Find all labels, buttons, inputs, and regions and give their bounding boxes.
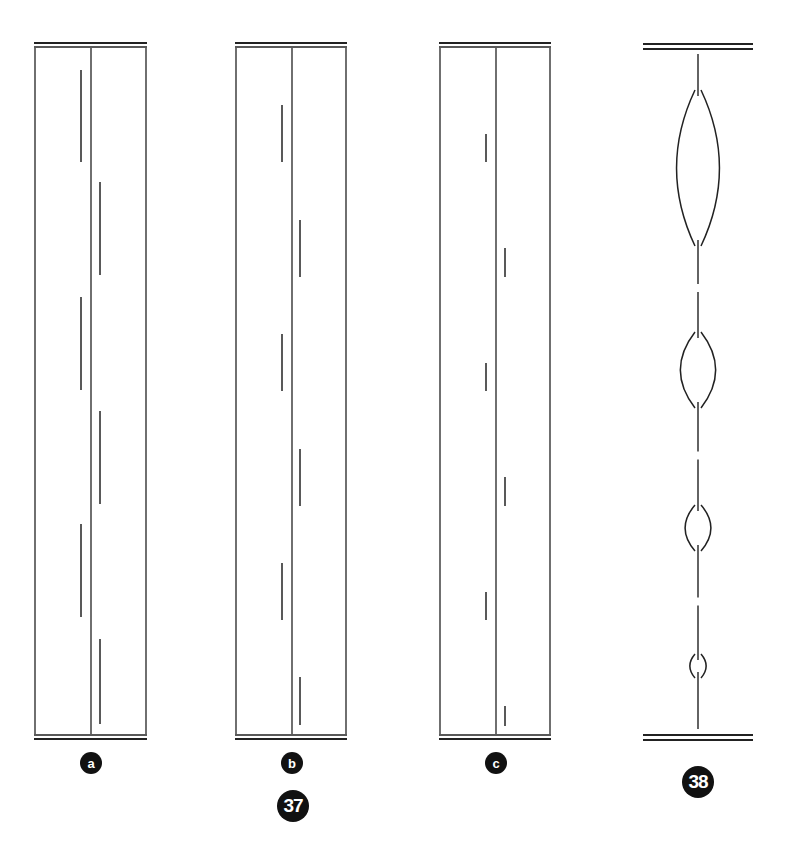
figure-number-37: 37 (277, 790, 309, 822)
label-badge-a: a (80, 752, 102, 774)
bulge-right-arc (701, 90, 719, 246)
label-badge-b: b (281, 752, 303, 774)
fiber-diagram (0, 0, 789, 852)
bulge-left-arc (677, 90, 695, 246)
bulge-right-arc (701, 505, 711, 551)
bulge-left-arc (685, 505, 695, 551)
label-badge-c: c (485, 752, 507, 774)
figure-number-38: 38 (682, 766, 714, 798)
panels-37 (34, 43, 551, 739)
panel-38-beaded-fiber (643, 44, 753, 740)
bulge-right-arc (701, 654, 706, 678)
panel-c (439, 43, 551, 739)
bulge-left-arc (680, 332, 695, 408)
bulge-right-arc (701, 332, 716, 408)
bulge-left-arc (690, 654, 695, 678)
panel-a (34, 43, 147, 739)
panel-b (235, 43, 347, 739)
